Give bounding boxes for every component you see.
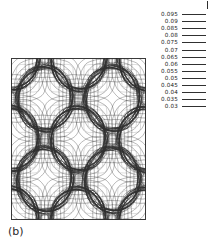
legend-row: 0.09 [148, 18, 206, 25]
panel-label: (b) [8, 226, 24, 238]
legend-line-swatch [182, 54, 206, 61]
legend-level-label: 0.085 [161, 25, 178, 32]
legend-level-label: 0.095 [161, 11, 178, 18]
legend-row: 0.085 [148, 25, 206, 32]
legend-line-swatch [182, 82, 206, 89]
legend-level-label: 0.075 [161, 39, 178, 46]
legend-row: 0.03 [148, 103, 206, 110]
legend-row: 0.095 [148, 11, 206, 18]
legend-level-label: 0.08 [165, 32, 178, 39]
legend-line-swatch [182, 89, 206, 96]
corner-tick-mark [207, 1, 208, 9]
legend-line-swatch [182, 18, 206, 25]
legend-line-swatch [182, 25, 206, 32]
legend-row: 0.08 [148, 32, 206, 39]
legend-row: 0.065 [148, 54, 206, 61]
legend-line-swatch [182, 68, 206, 75]
legend-level-label: 0.045 [161, 82, 178, 89]
contour-legend: 0.0950.090.0850.080.0750.070.0650.060.05… [148, 11, 206, 110]
legend-row: 0.075 [148, 39, 206, 46]
legend-level-label: 0.04 [165, 89, 178, 96]
legend-line-swatch [182, 32, 206, 39]
legend-row: 0.04 [148, 89, 206, 96]
legend-level-label: 0.06 [165, 61, 178, 68]
legend-row: 0.07 [148, 46, 206, 53]
legend-line-swatch [182, 103, 206, 110]
legend-line-swatch [182, 75, 206, 82]
legend-row: 0.05 [148, 75, 206, 82]
legend-line-swatch [182, 39, 206, 46]
legend-level-label: 0.05 [165, 75, 178, 82]
legend-level-label: 0.03 [165, 103, 178, 110]
legend-row: 0.045 [148, 82, 206, 89]
legend-row: 0.06 [148, 61, 206, 68]
legend-row: 0.055 [148, 68, 206, 75]
legend-line-swatch [182, 47, 206, 54]
contour-field [11, 58, 146, 220]
legend-line-swatch [182, 96, 206, 103]
contour-figure: (b) 0.0950.090.0850.080.0750.070.0650.06… [0, 0, 214, 247]
legend-line-swatch [182, 11, 206, 18]
legend-level-label: 0.055 [161, 68, 178, 75]
legend-level-label: 0.09 [165, 18, 178, 25]
legend-level-label: 0.035 [161, 96, 178, 103]
legend-level-label: 0.07 [165, 47, 178, 54]
legend-row: 0.035 [148, 96, 206, 103]
legend-line-swatch [182, 61, 206, 68]
contour-plot-panel [11, 58, 146, 220]
legend-level-label: 0.065 [161, 54, 178, 61]
